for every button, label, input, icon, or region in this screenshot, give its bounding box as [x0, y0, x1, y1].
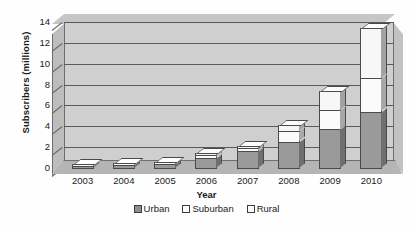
x-tick-label: 2010 — [354, 176, 388, 186]
bar-group[interactable] — [360, 28, 382, 169]
bar-group[interactable] — [237, 146, 259, 169]
y-tick-label: 8 — [28, 80, 50, 90]
y-tick-label: 2 — [28, 142, 50, 152]
plot-floor — [52, 160, 402, 177]
bar-group[interactable] — [154, 162, 176, 169]
bar-segment[interactable] — [195, 155, 217, 157]
x-tick-label: 2008 — [272, 176, 306, 186]
y-tick-label: 14 — [28, 17, 50, 27]
x-tick-label: 2007 — [231, 176, 265, 186]
y-tick-label: 6 — [28, 100, 50, 110]
legend-item[interactable]: Urban — [134, 204, 170, 214]
bar-segment[interactable] — [237, 148, 259, 151]
x-tick-label: 2006 — [189, 176, 223, 186]
bar-segment[interactable] — [278, 125, 300, 131]
bar-segment[interactable] — [360, 28, 382, 78]
legend-item[interactable]: Rural — [247, 204, 280, 214]
bar-group[interactable] — [195, 153, 217, 169]
y-axis-tick-labels: 02468101214 — [26, 0, 50, 180]
bar-segment[interactable] — [195, 158, 217, 169]
x-tick-label: 2005 — [148, 176, 182, 186]
x-tick-label: 2004 — [107, 176, 141, 186]
bar-segment[interactable] — [319, 91, 341, 110]
x-tick-label: 2009 — [313, 176, 347, 186]
bar-segment[interactable] — [360, 112, 382, 169]
y-tick-label: 4 — [28, 121, 50, 131]
legend-item[interactable]: Suburban — [182, 204, 233, 214]
bar-segment[interactable] — [278, 131, 300, 141]
y-tick-label: 10 — [28, 59, 50, 69]
legend-label: Urban — [144, 204, 170, 214]
bar-segment[interactable] — [154, 162, 176, 164]
bar-segment[interactable] — [72, 164, 94, 166]
gridline — [64, 64, 394, 65]
legend-label: Suburban — [192, 204, 233, 214]
gridline — [64, 22, 394, 23]
bar-segment[interactable] — [319, 129, 341, 169]
bar-segment-side — [381, 75, 387, 112]
bar-segment[interactable] — [237, 146, 259, 148]
stacked-column-chart: Subscribers (millions) 02468101214 20032… — [0, 0, 413, 227]
plot-right-wall — [393, 22, 403, 174]
y-tick-label: 0 — [28, 163, 50, 173]
bar-group[interactable] — [278, 125, 300, 169]
bar-segment-side — [299, 138, 305, 168]
x-axis-title: Year — [0, 189, 413, 200]
bar-segment[interactable] — [195, 153, 217, 155]
bar-group[interactable] — [113, 163, 135, 169]
bar-segment[interactable] — [319, 110, 341, 130]
gridline — [64, 43, 394, 44]
bar-segment-side — [381, 25, 387, 79]
bar-group[interactable] — [72, 164, 94, 169]
bar-segment[interactable] — [113, 163, 135, 165]
legend-label: Rural — [257, 204, 280, 214]
bar-segment[interactable] — [278, 142, 300, 169]
x-tick-label: 2003 — [66, 176, 100, 186]
rural-swatch-icon — [247, 205, 255, 213]
urban-swatch-icon — [134, 205, 142, 213]
bar-segment[interactable] — [72, 166, 94, 169]
plot-area — [52, 14, 402, 176]
bar-segment-side — [381, 108, 387, 168]
bar-segment[interactable] — [154, 164, 176, 169]
bar-segment-side — [340, 126, 346, 168]
bar-segment[interactable] — [237, 151, 259, 169]
chart-legend: UrbanSuburbanRural — [0, 204, 413, 214]
bar-segment[interactable] — [360, 78, 382, 111]
x-axis-tick-labels: 20032004200520062007200820092010 — [52, 176, 404, 190]
bar-segment[interactable] — [113, 165, 135, 169]
bar-group[interactable] — [319, 91, 341, 169]
suburban-swatch-icon — [182, 205, 190, 213]
y-tick-label: 12 — [28, 38, 50, 48]
